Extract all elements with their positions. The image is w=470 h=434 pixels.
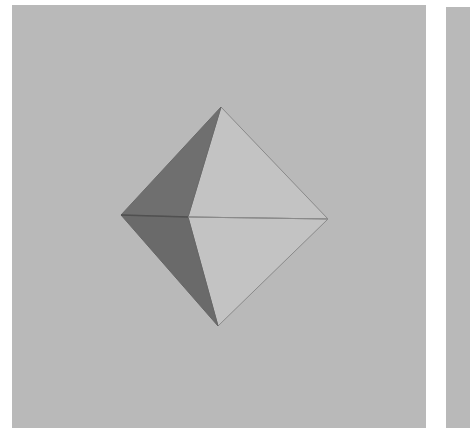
octahedron-diagram	[0, 0, 470, 434]
figure	[0, 0, 470, 434]
